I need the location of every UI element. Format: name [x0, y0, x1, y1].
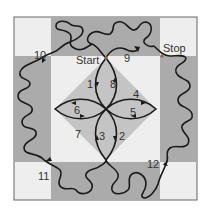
- step-label-2: 2: [119, 130, 125, 142]
- step-label-4: 4: [133, 88, 139, 100]
- step-label-1: 1: [87, 78, 93, 90]
- step-label-3: 3: [99, 130, 105, 142]
- step-label-12: 12: [147, 158, 159, 170]
- stop-label: Stop: [163, 42, 186, 54]
- start-label: Start: [76, 54, 99, 66]
- step-label-7: 7: [75, 128, 81, 140]
- step-label-11: 11: [38, 170, 49, 182]
- start-point: [104, 56, 108, 60]
- stop-point: [160, 54, 164, 58]
- step-label-5: 5: [130, 106, 136, 118]
- step-label-6: 6: [74, 104, 80, 116]
- step-label-10: 10: [34, 49, 46, 61]
- step-label-8: 8: [110, 78, 116, 90]
- step-label-9: 9: [124, 52, 130, 64]
- top-border-strip: [51, 18, 160, 56]
- quilt-diagram: Start Stop 1 2 3 4 5 6 7 8 9 10 11 12: [0, 0, 209, 221]
- bottom-border-strip: [51, 162, 160, 199]
